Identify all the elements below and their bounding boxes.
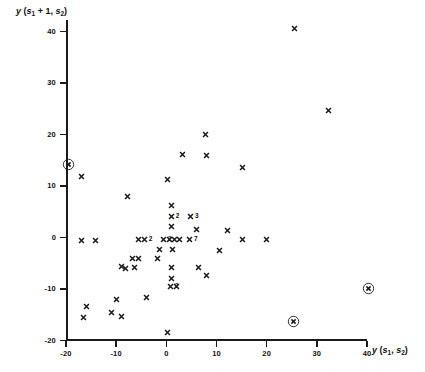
data-point xyxy=(168,223,175,230)
data-point xyxy=(169,246,176,253)
data-point xyxy=(143,294,150,301)
x-tick-label: 0 xyxy=(153,349,179,358)
x-tick-label: -20 xyxy=(53,349,79,358)
data-point xyxy=(186,236,193,243)
data-point xyxy=(131,264,138,271)
y-tick-mark xyxy=(60,82,66,84)
data-point-outlier xyxy=(62,158,75,171)
y-tick-label: 0 xyxy=(30,233,56,242)
data-point xyxy=(176,236,183,243)
data-point xyxy=(92,237,99,244)
data-point xyxy=(78,237,85,244)
data-point xyxy=(83,303,90,310)
data-point xyxy=(263,236,270,243)
x-tick-mark xyxy=(166,341,168,347)
data-point xyxy=(164,176,171,183)
data-point xyxy=(154,255,161,262)
data-point xyxy=(203,152,210,159)
data-point xyxy=(135,255,142,262)
point-multiplicity-label: 7 xyxy=(194,235,198,242)
x-tick-label: 30 xyxy=(304,349,330,358)
data-point xyxy=(141,236,148,243)
point-multiplicity-label: 3 xyxy=(195,212,199,219)
point-multiplicity-label: 2 xyxy=(149,235,153,242)
data-point xyxy=(168,264,175,271)
data-point xyxy=(203,272,210,279)
x-tick-mark xyxy=(216,341,218,347)
data-point xyxy=(187,213,194,220)
data-point xyxy=(179,151,186,158)
data-point xyxy=(168,202,175,209)
data-point xyxy=(224,227,231,234)
data-point xyxy=(173,283,180,290)
y-tick-label: -20 xyxy=(30,336,56,345)
x-tick-mark xyxy=(65,341,67,347)
y-axis-line xyxy=(66,20,68,341)
x-tick-label: 40 xyxy=(354,349,380,358)
data-point xyxy=(239,236,246,243)
data-point xyxy=(113,296,120,303)
x-tick-label: -10 xyxy=(103,349,129,358)
scatter-plot: y (s1 + 1, s2) y (s1, s2) -20-1001020304… xyxy=(0,0,425,372)
x-tick-label: 20 xyxy=(254,349,280,358)
y-tick-label: -10 xyxy=(30,284,56,293)
data-point xyxy=(156,246,163,253)
data-point xyxy=(168,275,175,282)
x-tick-mark xyxy=(366,341,368,347)
data-point xyxy=(80,314,87,321)
data-point xyxy=(164,329,171,336)
y-tick-mark xyxy=(60,237,66,239)
x-tick-label: 10 xyxy=(204,349,230,358)
y-tick-mark xyxy=(60,288,66,290)
data-point xyxy=(168,213,175,220)
data-point xyxy=(118,313,125,320)
y-tick-mark xyxy=(60,31,66,33)
y-tick-mark xyxy=(60,134,66,136)
y-axis-title: y (s1 + 1, s2) xyxy=(16,6,67,16)
data-point-outlier xyxy=(287,315,300,328)
x-tick-mark xyxy=(266,341,268,347)
y-tick-label: 20 xyxy=(30,130,56,139)
data-point xyxy=(122,265,129,272)
data-point xyxy=(124,193,131,200)
point-multiplicity-label: 2 xyxy=(176,212,180,219)
y-tick-mark xyxy=(60,185,66,187)
y-tick-label: 30 xyxy=(30,78,56,87)
data-point xyxy=(216,247,223,254)
data-point xyxy=(78,173,85,180)
data-point xyxy=(325,107,332,114)
data-point xyxy=(193,226,200,233)
data-point xyxy=(291,25,298,32)
x-tick-mark xyxy=(115,341,117,347)
data-point xyxy=(108,309,115,316)
data-point xyxy=(239,164,246,171)
data-point xyxy=(195,264,202,271)
data-point xyxy=(202,131,209,138)
x-tick-mark xyxy=(316,341,318,347)
data-point-outlier xyxy=(362,282,375,295)
y-tick-label: 40 xyxy=(30,27,56,36)
y-tick-label: 10 xyxy=(30,181,56,190)
